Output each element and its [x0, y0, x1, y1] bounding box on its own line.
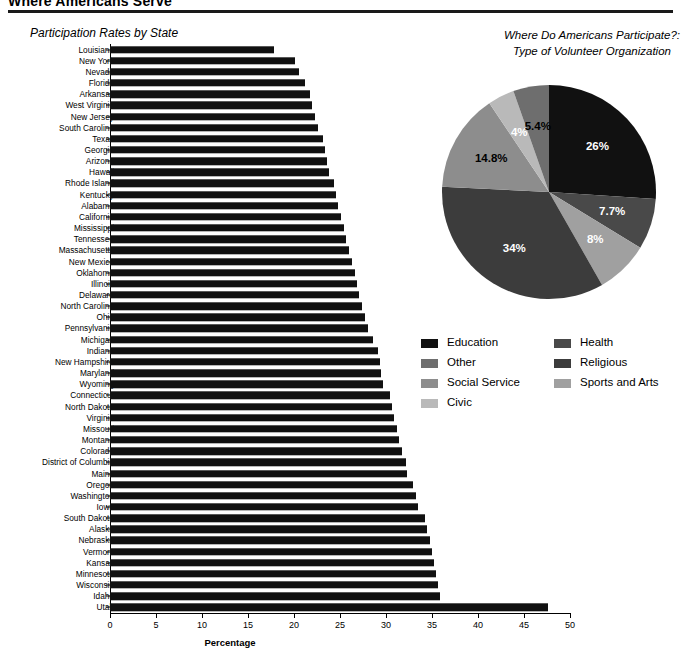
pie-slice-label: 8% — [587, 233, 604, 245]
bar-fill — [110, 336, 373, 343]
x-axis-tick-label: 45 — [519, 620, 529, 630]
x-axis-tick — [248, 613, 249, 618]
bar-row: Colorado — [0, 446, 600, 457]
bar-fill — [110, 113, 315, 120]
bar-fill — [110, 604, 548, 611]
x-axis-tick — [432, 613, 433, 618]
bar-fill — [110, 124, 318, 131]
x-axis-tick-label: 25 — [335, 620, 345, 630]
x-axis-tick-label: 35 — [427, 620, 437, 630]
x-axis-title: Percentage — [204, 637, 255, 648]
bar-fill — [110, 403, 392, 410]
title-divider — [8, 10, 673, 13]
bar-category-label: District of Columbia — [42, 458, 114, 466]
legend-label: Education — [447, 337, 498, 349]
bar-fill — [110, 347, 378, 354]
legend-label: Sports and Arts — [580, 377, 659, 389]
legend-label: Religious — [580, 357, 627, 369]
bar-row: Nevada — [0, 66, 600, 77]
bar-fill — [110, 514, 425, 521]
legend-item: Other — [421, 353, 520, 373]
bar-row: Nebraska — [0, 535, 600, 546]
x-axis-tick-label: 20 — [289, 620, 299, 630]
x-axis-tick-label: 50 — [565, 620, 575, 630]
bar-fill — [110, 91, 310, 98]
x-axis-tick — [156, 613, 157, 618]
bar-fill — [110, 369, 381, 376]
x-axis-tick — [110, 613, 111, 618]
bar-row: Washington — [0, 490, 600, 501]
bar-fill — [110, 258, 352, 265]
bar-fill — [110, 57, 295, 64]
bar-fill — [110, 492, 416, 499]
legend-color-swatch — [421, 399, 438, 408]
bar-row: Vermont — [0, 546, 600, 557]
bar-fill — [110, 481, 413, 488]
bar-fill — [110, 102, 312, 109]
bar-fill — [110, 526, 427, 533]
bar-fill — [110, 314, 365, 321]
bar-fill — [110, 213, 341, 220]
legend-color-swatch — [554, 379, 571, 388]
bar-fill — [110, 581, 438, 588]
bar-row: Oregon — [0, 479, 600, 490]
bar-fill — [110, 236, 346, 243]
bar-fill — [110, 537, 430, 544]
bar-fill — [110, 570, 436, 577]
bar-fill — [110, 358, 380, 365]
legend-column-left: EducationOtherSocial ServiceCivic — [421, 333, 520, 413]
bar-row: South Dakota — [0, 513, 600, 524]
x-axis-tick — [524, 613, 525, 618]
bar-row: Idaho — [0, 591, 600, 602]
bar-row: Wisconsin — [0, 580, 600, 591]
legend-color-swatch — [421, 359, 438, 368]
bar-fill — [110, 392, 390, 399]
bar-fill — [110, 157, 327, 164]
bar-fill — [110, 247, 349, 254]
bar-row: Maine — [0, 468, 600, 479]
pie-chart-svg: 26%7.7%8%34%14.8%4%5.4% — [441, 84, 657, 300]
bar-row: Montana — [0, 434, 600, 445]
x-axis-tick-label: 15 — [243, 620, 253, 630]
legend-item: Sports and Arts — [554, 373, 659, 393]
bar-row: Ohio — [0, 312, 600, 323]
bar-fill — [110, 202, 338, 209]
pie-slice-label: 14.8% — [475, 152, 508, 164]
pie-slice-label: 5.4% — [525, 120, 551, 132]
x-axis-tick-label: 5 — [153, 620, 158, 630]
bar-fill — [110, 448, 402, 455]
x-axis-tick — [202, 613, 203, 618]
bar-row: Virginia — [0, 412, 600, 423]
bar-fill — [110, 436, 399, 443]
bar-fill — [110, 280, 357, 287]
bar-fill — [110, 325, 368, 332]
x-axis-tick — [294, 613, 295, 618]
x-axis-tick — [386, 613, 387, 618]
bar-fill — [110, 559, 434, 566]
pie-slice-label: 34% — [503, 242, 526, 254]
legend-label: Other — [447, 357, 476, 369]
document-title: Where Americans Serve — [8, 0, 172, 9]
bar-row: Kansas — [0, 557, 600, 568]
legend-item: Education — [421, 333, 520, 353]
x-axis-tick-label: 10 — [197, 620, 207, 630]
pie-chart-title: Where Do Americans Participate?: Type of… — [487, 28, 693, 59]
bar-fill — [110, 503, 418, 510]
bar-row: North Carolina — [0, 301, 600, 312]
x-axis-tick-label: 30 — [381, 620, 391, 630]
pie-title-line-1: Where Do Americans Participate?: — [504, 29, 680, 41]
bar-row: Iowa — [0, 501, 600, 512]
bar-fill — [110, 269, 355, 276]
legend-item: Social Service — [421, 373, 520, 393]
legend-item: Civic — [421, 393, 520, 413]
legend-label: Civic — [447, 397, 472, 409]
pie-chart: 26%7.7%8%34%14.8%4%5.4% — [441, 84, 657, 300]
bar-fill — [110, 548, 432, 555]
bar-fill — [110, 425, 397, 432]
x-axis-tick-label: 40 — [473, 620, 483, 630]
legend-item: Religious — [554, 353, 659, 373]
bar-fill — [110, 79, 305, 86]
legend-item: Health — [554, 333, 659, 353]
bar-row: Utah — [0, 602, 600, 613]
legend-color-swatch — [421, 339, 438, 348]
